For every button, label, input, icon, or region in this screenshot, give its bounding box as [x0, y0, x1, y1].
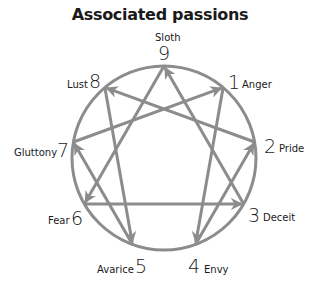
number-label-2: 2: [264, 137, 276, 156]
passion-label-4: Envy: [204, 265, 229, 275]
passion-label-1: Anger: [242, 80, 272, 90]
passion-label-6: Fear: [48, 216, 70, 226]
passion-label-8: Lust: [67, 80, 88, 90]
number-label-7: 7: [57, 141, 69, 160]
number-label-1: 1: [228, 73, 240, 92]
number-label-5: 5: [135, 257, 147, 276]
passion-label-2: Pride: [279, 144, 304, 154]
passion-label-5: Avarice: [97, 265, 134, 275]
number-label-4: 4: [188, 257, 200, 276]
number-label-6: 6: [71, 209, 83, 228]
passion-label-3: Deceit: [263, 213, 295, 223]
enneagram-circle: [72, 66, 256, 250]
number-label-3: 3: [248, 206, 260, 225]
passion-label-7: Gluttony: [14, 148, 57, 158]
number-label-8: 8: [89, 72, 101, 91]
number-label-9: 9: [158, 44, 170, 63]
